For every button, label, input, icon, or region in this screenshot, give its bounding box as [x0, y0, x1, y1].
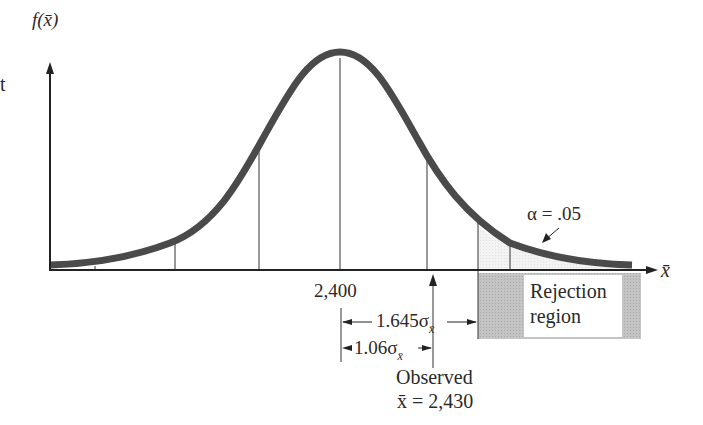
observed-label-line1: Observed — [396, 367, 473, 387]
x-axis-arrow — [646, 266, 658, 274]
critical-dimension-label: 1.645σx̄ — [376, 311, 434, 330]
observed-label-line2: x̄ = 2,430 — [397, 391, 473, 411]
rejection-region-label-line2: region — [530, 306, 581, 326]
normal-distribution-diagram — [0, 0, 703, 425]
observed-arrow-head — [429, 274, 437, 286]
observed-dimension-label: 1.06σx̄ — [354, 338, 403, 357]
alpha-label: α = .05 — [527, 204, 581, 223]
x-axis-label: x̄ — [661, 260, 670, 280]
mean-label: 2,400 — [314, 281, 357, 300]
normal-curve — [50, 52, 632, 265]
y-axis-label: f(x̄) — [32, 10, 58, 29]
left-fragment: t — [0, 74, 6, 94]
y-axis-arrow — [46, 62, 54, 74]
rejection-region-label-line1: Rejection — [530, 281, 607, 301]
